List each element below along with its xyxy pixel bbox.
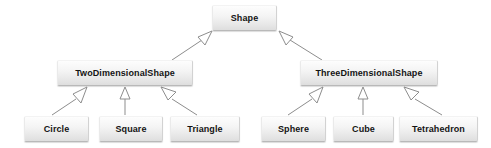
class-box-twodimensionalshape-label: TwoDimensionalShape	[75, 69, 175, 78]
class-box-threedimensionalshape[interactable]: ThreeDimensionalShape	[300, 60, 438, 86]
uml-class-diagram: Shape TwoDimensionalShape ThreeDimension…	[0, 0, 491, 148]
class-box-tetrahedron-label: Tetrahedron	[412, 125, 465, 134]
class-box-square-label: Square	[115, 125, 146, 134]
edge-tetrahedron-to-threedimensionalshape	[404, 87, 442, 115]
class-box-twodimensionalshape[interactable]: TwoDimensionalShape	[57, 60, 193, 86]
class-box-tetrahedron[interactable]: Tetrahedron	[399, 116, 478, 142]
class-box-triangle[interactable]: Triangle	[170, 116, 240, 142]
edge-square-to-twodimensionalshape	[120, 87, 130, 115]
class-box-circle[interactable]: Circle	[24, 116, 89, 142]
class-box-square[interactable]: Square	[99, 116, 163, 142]
edge-cube-to-threedimensionalshape	[358, 87, 368, 115]
edge-sphere-to-threedimensionalshape	[288, 87, 323, 115]
class-box-shape-label: Shape	[231, 14, 259, 23]
class-box-cube[interactable]: Cube	[333, 116, 394, 142]
class-box-sphere-label: Sphere	[278, 125, 309, 134]
edge-triangle-to-twodimensionalshape	[161, 87, 197, 115]
class-box-shape[interactable]: Shape	[212, 5, 277, 31]
class-box-triangle-label: Triangle	[187, 125, 222, 134]
class-box-circle-label: Circle	[44, 125, 70, 134]
edge-twodimensionalshape-to-shape	[172, 31, 212, 60]
class-box-sphere[interactable]: Sphere	[261, 116, 326, 142]
class-box-cube-label: Cube	[352, 125, 375, 134]
edge-threedimensionalshape-to-shape	[279, 31, 322, 60]
class-box-threedimensionalshape-label: ThreeDimensionalShape	[315, 69, 422, 78]
edge-circle-to-twodimensionalshape	[52, 87, 87, 115]
